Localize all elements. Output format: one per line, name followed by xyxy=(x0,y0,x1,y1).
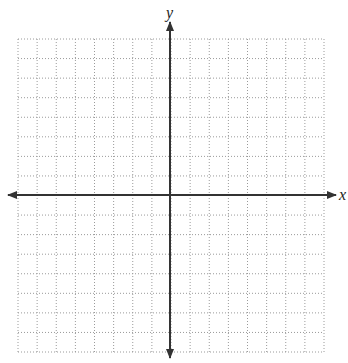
x-axis-label: x xyxy=(338,186,346,203)
y-axis-label: y xyxy=(164,4,174,22)
coordinate-plane: x y xyxy=(0,0,348,363)
